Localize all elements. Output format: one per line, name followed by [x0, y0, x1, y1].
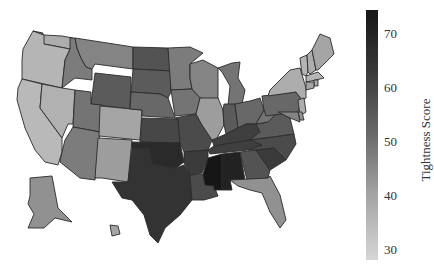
- state-ct: [306, 82, 314, 90]
- colorbar-tick-30: 30: [384, 243, 397, 256]
- colorbar-tick-40: 40: [384, 189, 397, 202]
- state-wy: [91, 73, 131, 109]
- state-nm: [95, 138, 132, 182]
- colorbar-tick-50: 50: [384, 135, 397, 148]
- state-co: [99, 106, 142, 140]
- state-nd: [133, 47, 171, 71]
- state-hi: [110, 225, 120, 236]
- colorbar: [366, 10, 378, 260]
- state-me: [312, 34, 334, 70]
- colorbar-tick-60: 60: [384, 81, 397, 94]
- colorbar-title: Tightness Score: [418, 80, 434, 200]
- state-az: [60, 127, 100, 180]
- colorbar-tick-70: 70: [384, 27, 397, 40]
- state-ks: [140, 118, 180, 143]
- state-ri: [314, 80, 318, 86]
- us-choropleth-map: [0, 0, 360, 273]
- state-fl: [230, 176, 286, 228]
- state-ak: [28, 176, 72, 228]
- state-mi: [218, 62, 245, 105]
